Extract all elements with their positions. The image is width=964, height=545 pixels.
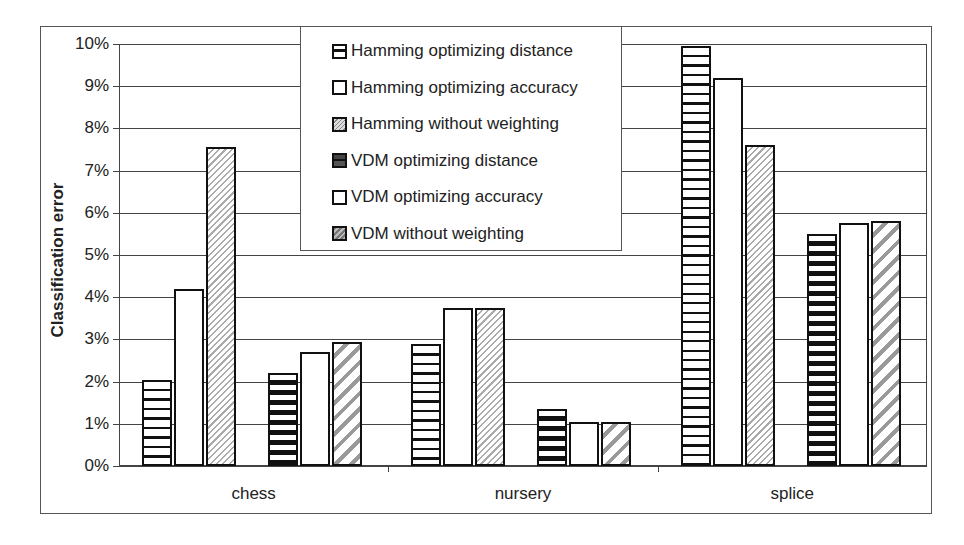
y-tick-label: 6% <box>53 203 109 223</box>
category-label-nursery: nursery <box>423 484 623 504</box>
y-tick-label: 0% <box>53 456 109 476</box>
legend-item: VDM optimizing distance <box>301 143 621 180</box>
bar-nursery-2 <box>475 308 505 466</box>
legend-item: Hamming optimizing accuracy <box>301 70 621 107</box>
bar-chess-3 <box>268 373 298 466</box>
category-label-splice: splice <box>692 484 892 504</box>
y-tick-label: 4% <box>53 287 109 307</box>
y-tick-label: 9% <box>53 76 109 96</box>
legend-item: Hamming optimizing distance <box>301 33 621 70</box>
legend-swatch-icon <box>332 117 347 132</box>
y-tick-label: 10% <box>53 34 109 54</box>
category-label-chess: chess <box>154 484 354 504</box>
bar-splice-0 <box>681 46 711 466</box>
bar-chess-4 <box>300 352 330 466</box>
y-tick-mark <box>113 466 119 467</box>
y-tick-label: 1% <box>53 414 109 434</box>
y-axis <box>119 44 120 466</box>
legend-swatch-icon <box>332 80 347 95</box>
bar-splice-3 <box>807 234 837 466</box>
legend-item: Hamming without weighting <box>301 106 621 143</box>
bar-nursery-1 <box>443 308 473 466</box>
bar-splice-1 <box>713 78 743 466</box>
bar-chess-2 <box>206 147 236 466</box>
bar-nursery-4 <box>569 422 599 466</box>
legend-item: VDM without weighting <box>301 216 621 253</box>
plot-right-border <box>926 44 927 466</box>
legend-label: VDM without weighting <box>351 224 524 244</box>
legend: Hamming optimizing distanceHamming optim… <box>300 26 622 251</box>
bar-nursery-0 <box>411 344 441 466</box>
bar-splice-4 <box>839 223 869 466</box>
bar-chess-0 <box>142 380 172 467</box>
bar-nursery-5 <box>601 422 631 466</box>
legend-label: Hamming without weighting <box>351 114 559 134</box>
legend-swatch-icon <box>332 153 347 168</box>
y-tick-label: 3% <box>53 329 109 349</box>
legend-label: VDM optimizing distance <box>351 151 538 171</box>
bar-chess-5 <box>332 342 362 466</box>
bar-splice-5 <box>871 221 901 466</box>
legend-label: Hamming optimizing distance <box>351 41 573 61</box>
gridline <box>119 466 927 467</box>
y-tick-label: 2% <box>53 372 109 392</box>
y-tick-label: 5% <box>53 245 109 265</box>
legend-item: VDM optimizing accuracy <box>301 179 621 216</box>
category-divider-tick <box>658 466 659 472</box>
bar-chess-1 <box>174 289 204 466</box>
bar-splice-2 <box>745 145 775 466</box>
bar-nursery-3 <box>537 409 567 466</box>
legend-swatch-icon <box>332 44 347 59</box>
y-tick-label: 7% <box>53 161 109 181</box>
legend-label: VDM optimizing accuracy <box>351 187 543 207</box>
y-tick-label: 8% <box>53 118 109 138</box>
legend-label: Hamming optimizing accuracy <box>351 78 578 98</box>
legend-swatch-icon <box>332 226 347 241</box>
legend-swatch-icon <box>332 190 347 205</box>
category-divider-tick <box>388 466 389 472</box>
